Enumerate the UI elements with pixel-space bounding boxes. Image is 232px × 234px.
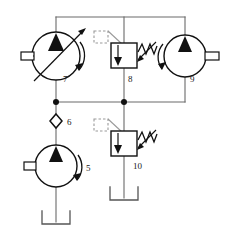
relief-valve-10-pilot-box [94,119,108,131]
relief-valve-8-body [111,43,137,68]
check-valve-6-label: 6 [67,117,72,127]
relief-valve-10-spring [138,132,157,142]
relief-valve-10: 10 [94,119,157,171]
relief-valve-10-body [111,131,137,156]
pump-5-label: 5 [86,163,91,173]
pump-5-shaft [24,162,36,170]
pump-7: 7 [21,28,86,84]
junction-left-rail-dot [53,99,59,105]
relief-valve-10-label: 10 [133,161,143,171]
hydraulic-circuit-diagram: 7 5 9 6 [0,0,232,234]
relief-valve-8-adjust-arrowhead [137,55,144,62]
relief-valve-8-label: 8 [128,74,133,84]
check-valve-6-diamond [50,114,62,128]
pump-9-label: 9 [190,74,195,84]
pump-9: 9 [158,35,219,84]
check-valve-6: 6 [50,114,72,128]
pump-7-label: 7 [63,74,68,84]
pump-7-shaft [21,52,34,60]
pump-5: 5 [24,145,91,187]
circuit-svg: 7 5 9 6 [0,0,232,234]
relief-valve-8: 8 [94,31,157,84]
relief-valve-10-pilot-line [108,119,122,132]
junction-center-rail-dot [121,99,127,105]
relief-valve-8-pilot-line [108,31,122,44]
relief-valve-8-spring [138,44,157,54]
relief-valve-10-adjust-arrowhead [137,143,144,150]
pump-7-variable-arrowhead [78,28,86,35]
relief-valve-8-pilot-box [94,31,108,43]
pump-9-shaft [205,52,219,60]
